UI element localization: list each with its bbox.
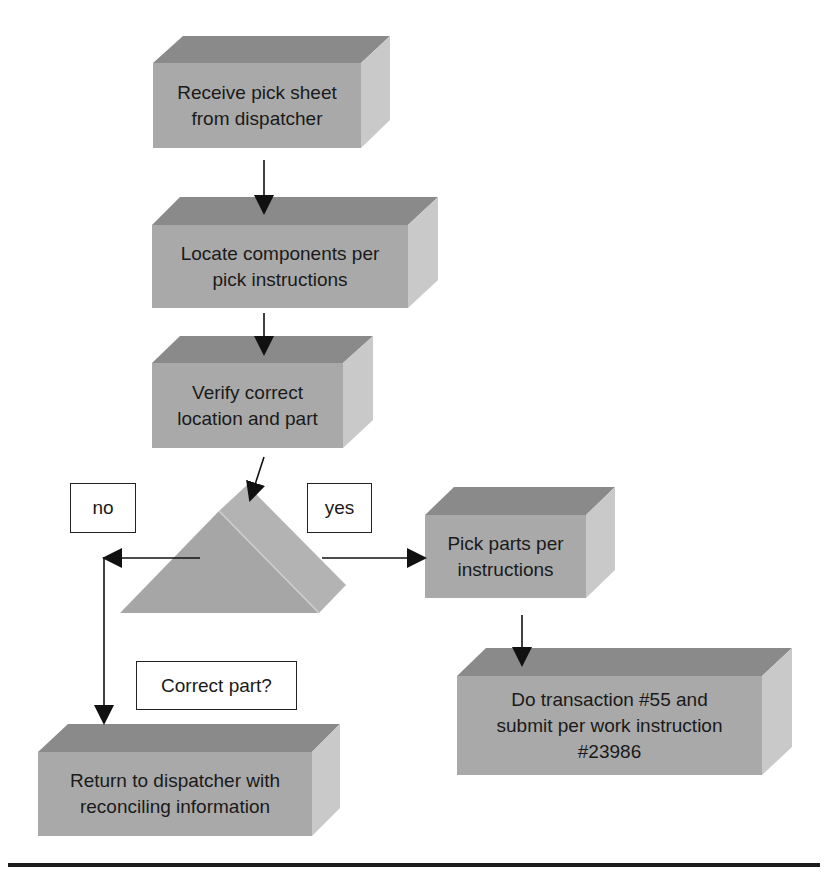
step-text-transaction: Do transaction #55 and submit per work i…	[457, 676, 762, 775]
arrow-verify-to-decision	[250, 457, 264, 500]
step-text-receive: Receive pick sheet from dispatcher	[153, 63, 361, 148]
bottom-divider	[8, 863, 820, 867]
step-text-pick: Pick parts per instructions	[425, 515, 586, 598]
step-text-verify: Verify correct location and part	[152, 363, 343, 448]
step-text-return: Return to dispatcher with reconciling in…	[38, 752, 312, 836]
decision-question-label: Correct part?	[136, 661, 297, 710]
decision-yes-label: yes	[307, 483, 372, 533]
decision-no-label: no	[70, 483, 136, 533]
step-text-locate: Locate components per pick instructions	[152, 225, 408, 308]
